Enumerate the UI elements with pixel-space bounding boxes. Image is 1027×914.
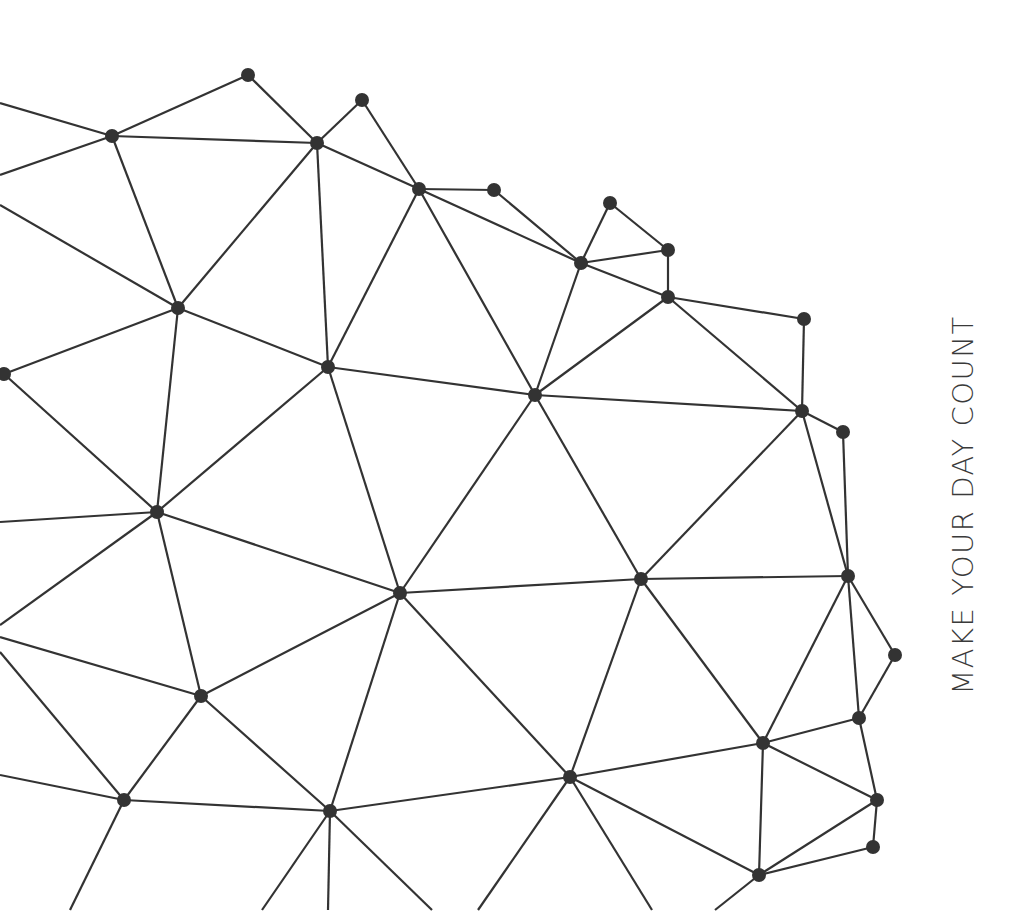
network-edge (763, 718, 859, 743)
network-edge (848, 576, 895, 655)
network-edge (419, 189, 494, 190)
network-edge (641, 579, 763, 743)
network-edge (328, 367, 400, 593)
network-edge (400, 395, 535, 593)
network-edge (0, 205, 178, 308)
network-edge (112, 136, 317, 143)
network-graphic (0, 0, 1027, 914)
network-edge (4, 308, 178, 374)
network-edge (581, 250, 668, 263)
network-edge (178, 143, 317, 308)
network-node (888, 648, 902, 662)
network-edge (848, 576, 859, 718)
network-edge (535, 395, 802, 411)
network-node (150, 505, 164, 519)
network-node (412, 182, 426, 196)
network-edge (70, 800, 124, 910)
network-edge (494, 190, 581, 263)
network-edge (330, 811, 432, 910)
network-edge (330, 777, 570, 811)
network-edge (0, 512, 157, 522)
network-edge (124, 696, 201, 800)
network-edge (668, 297, 802, 411)
network-node (171, 301, 185, 315)
network-edge (317, 100, 362, 143)
network-node (866, 840, 880, 854)
network-edge (400, 579, 641, 593)
network-node (752, 868, 766, 882)
network-node (563, 770, 577, 784)
network-edge (759, 847, 873, 875)
network-edge (478, 777, 570, 910)
network-edge (759, 800, 877, 875)
network-edge (400, 593, 570, 777)
tagline-text: MAKE YOUR DAY COUNT (946, 315, 980, 695)
network-node (241, 68, 255, 82)
network-edge (328, 189, 419, 367)
network-edge (570, 777, 652, 910)
network-node (117, 793, 131, 807)
network-node (797, 312, 811, 326)
network-edge (112, 136, 178, 308)
network-node (310, 136, 324, 150)
network-edge (570, 579, 641, 777)
network-edge (641, 411, 802, 579)
network-edge (759, 743, 763, 875)
network-edge (581, 203, 610, 263)
network-edge (0, 103, 112, 136)
network-node (487, 183, 501, 197)
network-node (836, 425, 850, 439)
network-node (321, 360, 335, 374)
network-node (393, 586, 407, 600)
network-node (661, 290, 675, 304)
network-edge (843, 432, 848, 576)
network-node (528, 388, 542, 402)
network-edge (157, 308, 178, 512)
network-edge (201, 696, 330, 811)
network-edge (859, 718, 877, 800)
network-edge (570, 743, 763, 777)
network-edge (570, 777, 759, 875)
network-edge (157, 512, 400, 593)
network-edge (873, 800, 877, 847)
network-edge (328, 811, 330, 910)
network-node (323, 804, 337, 818)
network-node (661, 243, 675, 257)
network-edge (802, 319, 804, 411)
network-node (603, 196, 617, 210)
network-edge (859, 655, 895, 718)
network-edge (317, 143, 328, 367)
network-edge (419, 189, 581, 263)
network-edge (328, 367, 535, 395)
network-node (105, 129, 119, 143)
network-node (194, 689, 208, 703)
network-node (574, 256, 588, 270)
network-edge (157, 512, 201, 696)
network-node (795, 404, 809, 418)
network-edge (4, 374, 157, 512)
network-node (852, 711, 866, 725)
network-edge (610, 203, 668, 250)
network-node (756, 736, 770, 750)
network-edge (178, 308, 328, 367)
network-node (870, 793, 884, 807)
network-edge (124, 800, 330, 811)
network-node (841, 569, 855, 583)
network-edge (641, 576, 848, 579)
network-edges (0, 75, 895, 910)
network-edge (581, 263, 668, 297)
network-node (355, 93, 369, 107)
network-edge (112, 75, 248, 136)
network-node (634, 572, 648, 586)
network-edge (419, 189, 535, 395)
network-edge (201, 593, 400, 696)
network-edge (248, 75, 317, 143)
network-edge (262, 811, 330, 910)
network-edge (330, 593, 400, 811)
network-edge (535, 263, 581, 395)
network-edge (535, 395, 641, 579)
network-edge (763, 743, 877, 800)
network-edge (535, 297, 668, 395)
network-edge (157, 367, 328, 512)
network-edge (715, 875, 759, 910)
